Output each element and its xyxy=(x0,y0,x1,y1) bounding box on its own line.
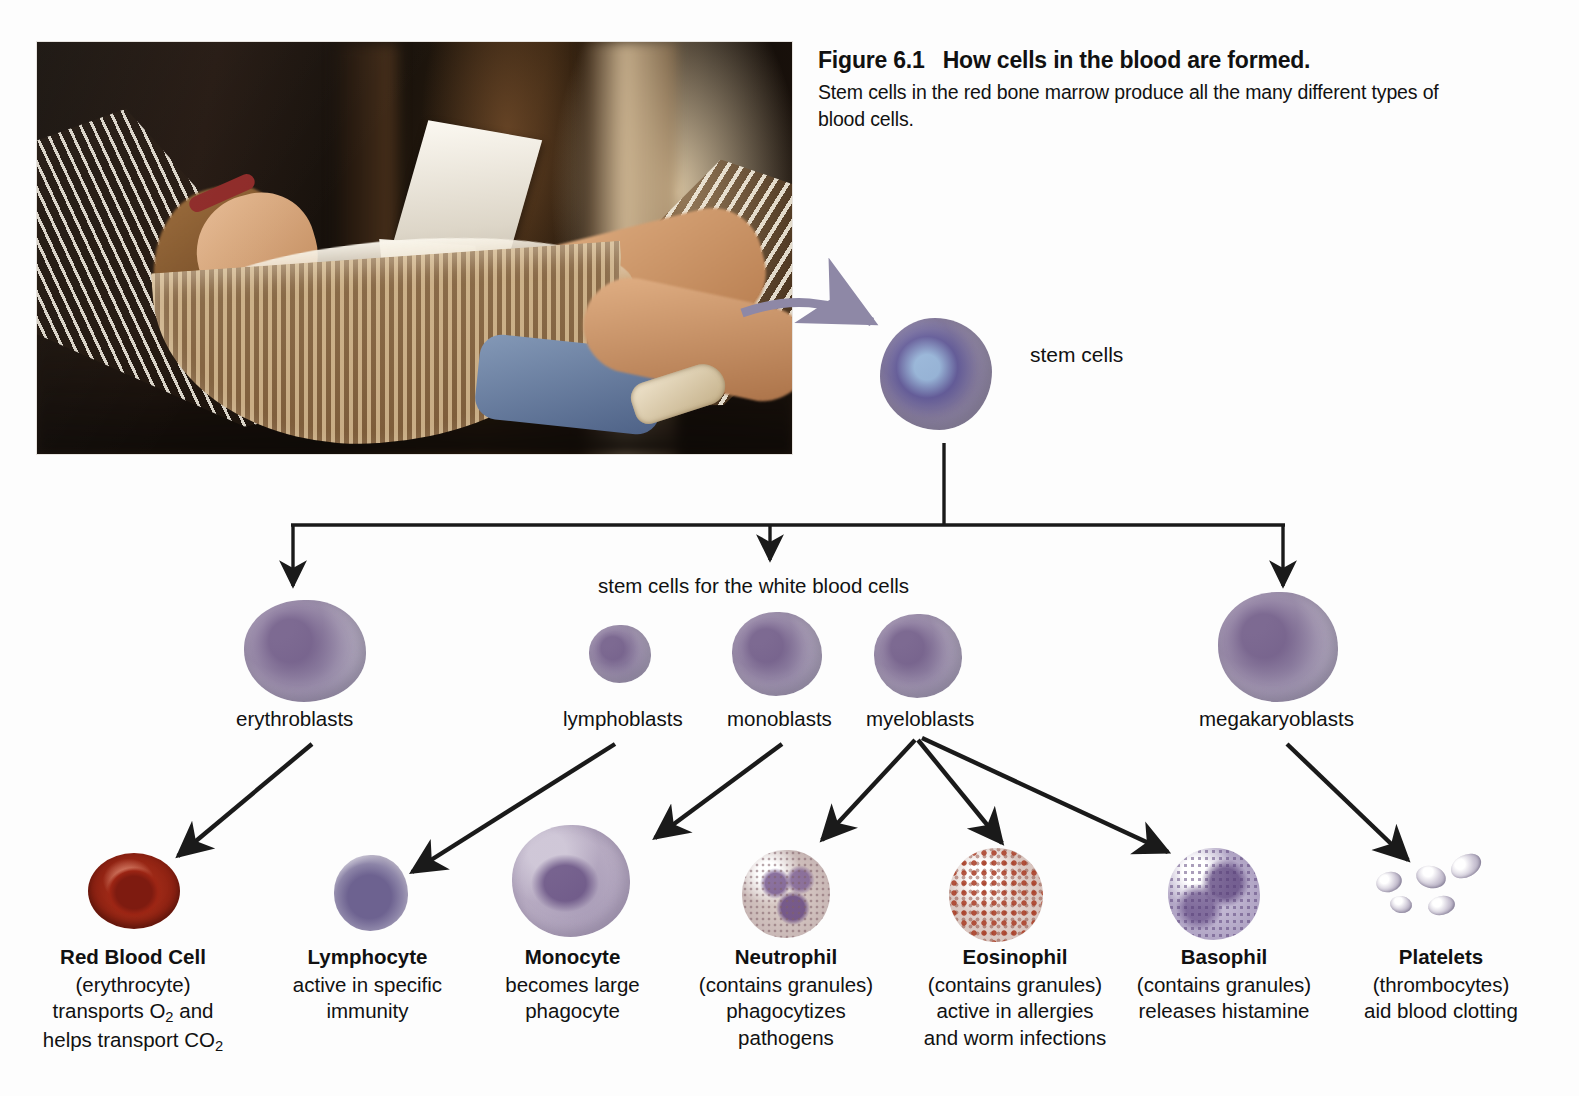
figure-caption: Figure 6.1How cells in the blood are for… xyxy=(818,46,1478,134)
platelet-fragment xyxy=(1414,863,1448,892)
platelets-line-1: (thrombocytes) xyxy=(1330,972,1552,999)
megakaryoblasts-cell-image xyxy=(1218,592,1338,702)
lymphocyte-name: Lymphocyte xyxy=(255,944,480,971)
eosinophil-cell-image xyxy=(949,848,1043,942)
basophil-cell-image xyxy=(1168,848,1260,940)
caption-headline-row: Figure 6.1How cells in the blood are for… xyxy=(818,46,1478,75)
lymphocyte-line-1: active in specific xyxy=(255,972,480,999)
basophil-line-1: (contains granules) xyxy=(1110,972,1338,999)
lymphoblasts-cell-image xyxy=(589,625,651,683)
stem-cell-image xyxy=(880,318,992,430)
girl-reading-in-hammock-photo xyxy=(37,42,792,454)
monoblasts-label: monoblasts xyxy=(727,706,832,732)
arrow-megakaryoblasts-to-platelets xyxy=(1287,744,1408,860)
monocyte-line-2: phagocyte xyxy=(470,998,675,1025)
monocyte-line-1: becomes large xyxy=(470,972,675,999)
arrow-myeloblasts-to-neutrophil xyxy=(822,740,915,840)
platelets-name: Platelets xyxy=(1330,944,1552,971)
figure-page: Figure 6.1How cells in the blood are for… xyxy=(0,0,1579,1096)
basophil-name: Basophil xyxy=(1110,944,1338,971)
red-blood-cell-name: Red Blood Cell xyxy=(0,944,266,971)
myeloblasts-cell-image xyxy=(874,614,962,698)
figure-number: Figure 6.1 xyxy=(818,47,925,73)
neutrophil-line-2: phagocytizes xyxy=(672,998,900,1025)
photo-gloss xyxy=(37,42,792,454)
monocyte-name: Monocyte xyxy=(470,944,675,971)
red-blood-cell-line-1: (erythrocyte) xyxy=(0,972,266,999)
arrow-monoblasts-to-monocyte xyxy=(655,744,782,838)
neutrophil-name: Neutrophil xyxy=(672,944,900,971)
megakaryoblasts-label: megakaryoblasts xyxy=(1199,706,1354,732)
lymphocyte-line-2: immunity xyxy=(255,998,480,1025)
monocyte-cell-image xyxy=(512,825,630,937)
platelet-fragment xyxy=(1447,849,1486,883)
stem-cells-label: stem cells xyxy=(1030,342,1123,369)
red-blood-cell-line-2: transports O2 and xyxy=(0,998,266,1027)
eosinophil-caption: Eosinophil (contains granules) active in… xyxy=(890,944,1140,1052)
red-blood-cell-line-3: helps transport CO2 xyxy=(0,1027,266,1056)
erythroblasts-cell-image xyxy=(244,600,366,702)
lymphocyte-cell-image xyxy=(334,855,408,931)
lymphocyte-caption: Lymphocyte active in specific immunity xyxy=(255,944,480,1025)
arrow-erythroblasts-to-red-blood-cell xyxy=(178,744,312,856)
platelet-fragment xyxy=(1374,868,1405,895)
myeloblasts-label: myeloblasts xyxy=(866,706,974,732)
platelets-line-2: aid blood clotting xyxy=(1330,998,1552,1025)
eosinophil-name: Eosinophil xyxy=(890,944,1140,971)
neutrophil-cell-image xyxy=(742,850,830,938)
white-blood-stem-cells-label: stem cells for the white blood cells xyxy=(598,573,909,599)
eosinophil-line-2: active in allergies xyxy=(890,998,1140,1025)
neutrophil-caption: Neutrophil (contains granules) phagocyti… xyxy=(672,944,900,1052)
erythroblasts-label: erythroblasts xyxy=(236,706,353,732)
arrow-myeloblasts-to-basophil xyxy=(922,738,1168,852)
arrow-myeloblasts-to-eosinophil xyxy=(918,740,1002,843)
lymphoblasts-label: lymphoblasts xyxy=(563,706,683,732)
platelet-fragment xyxy=(1389,895,1413,915)
eosinophil-line-3: and worm infections xyxy=(890,1025,1140,1052)
platelet-fragment xyxy=(1426,893,1456,917)
eosinophil-line-1: (contains granules) xyxy=(890,972,1140,999)
monoblasts-cell-image xyxy=(732,612,822,696)
red-blood-cell-image xyxy=(88,853,180,929)
monocyte-caption: Monocyte becomes large phagocyte xyxy=(470,944,675,1025)
basophil-line-2: releases histamine xyxy=(1110,998,1338,1025)
figure-headline: How cells in the blood are formed. xyxy=(943,47,1311,73)
platelets-caption: Platelets (thrombocytes) aid blood clott… xyxy=(1330,944,1552,1025)
figure-body-text: Stem cells in the red bone marrow produc… xyxy=(818,79,1478,134)
neutrophil-line-3: pathogens xyxy=(672,1025,900,1052)
red-blood-cell-caption: Red Blood Cell (erythrocyte) transports … xyxy=(0,944,266,1056)
neutrophil-granules xyxy=(742,850,830,938)
basophil-granules xyxy=(1168,848,1260,940)
neutrophil-line-1: (contains granules) xyxy=(672,972,900,999)
eosinophil-granules xyxy=(949,848,1043,942)
basophil-caption: Basophil (contains granules) releases hi… xyxy=(1110,944,1338,1025)
